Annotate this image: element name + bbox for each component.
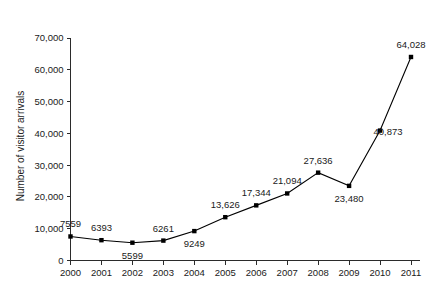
data-point-marker: [409, 55, 413, 59]
y-tick-label: 0: [58, 255, 63, 266]
data-point-labels: 7559639355996261924913,62617,34421,09427…: [60, 39, 426, 261]
data-point-label: 9249: [184, 238, 205, 249]
data-point-marker: [347, 184, 351, 188]
data-point-label: 40,873: [374, 126, 403, 137]
data-point-marker: [161, 238, 165, 242]
data-point-marker: [68, 234, 72, 238]
x-tick-label: 2008: [308, 267, 329, 278]
data-point-label: 23,480: [335, 193, 364, 204]
data-point-label: 17,344: [242, 187, 271, 198]
chart-figure: 010,00020,00030,00040,00050,00060,00070,…: [0, 0, 427, 293]
y-axis-group: 010,00020,00030,00040,00050,00060,00070,…: [15, 32, 71, 266]
y-tick-label: 60,000: [34, 64, 63, 75]
x-tick-label: 2003: [153, 267, 174, 278]
x-tick-label: 2001: [91, 267, 112, 278]
x-tick-label: 2002: [122, 267, 143, 278]
data-point-label: 27,636: [304, 155, 333, 166]
y-tick-label: 40,000: [34, 128, 63, 139]
data-point-marker: [192, 229, 196, 233]
visitor-arrivals-line-chart: 010,00020,00030,00040,00050,00060,00070,…: [0, 0, 427, 293]
data-point-marker: [130, 241, 134, 245]
data-point-markers: [68, 55, 413, 245]
data-point-marker: [285, 191, 289, 195]
visitor-arrivals-series-line: [71, 57, 412, 243]
x-tick-label: 2009: [339, 267, 360, 278]
data-point-label: 64,028: [396, 39, 425, 50]
y-tick-label: 70,000: [34, 32, 63, 43]
x-tick-label: 2010: [369, 267, 390, 278]
data-point-label: 7559: [60, 218, 81, 229]
x-tick-label: 2011: [401, 267, 421, 278]
y-axis-tick-labels: 010,00020,00030,00040,00050,00060,00070,…: [34, 32, 63, 266]
data-point-label: 6393: [91, 222, 112, 233]
x-tick-label: 2005: [215, 267, 236, 278]
data-point-label: 13,626: [211, 199, 240, 210]
y-tick-label: 30,000: [34, 160, 63, 171]
data-point-marker: [99, 238, 103, 242]
data-point-label: 5599: [122, 250, 143, 261]
data-point-label: 21,094: [273, 175, 302, 186]
x-tick-label: 2004: [184, 267, 205, 278]
x-axis-ticks: [71, 261, 412, 265]
data-point-marker: [316, 170, 320, 174]
x-tick-label: 2000: [60, 267, 81, 278]
data-point-marker: [223, 215, 227, 219]
y-tick-label: 50,000: [34, 96, 63, 107]
x-tick-label: 2007: [277, 267, 298, 278]
y-tick-label: 20,000: [34, 191, 63, 202]
data-point-label: 6261: [153, 223, 174, 234]
data-point-marker: [254, 203, 258, 207]
data-series-group: 7559639355996261924913,62617,34421,09427…: [60, 39, 426, 261]
y-axis-title: Number of visitor arrivals: [15, 91, 26, 202]
x-tick-label: 2006: [246, 267, 267, 278]
x-axis-tick-labels: 2000200120022003200420052006200720082009…: [60, 267, 421, 278]
x-axis-group: 2000200120022003200420052006200720082009…: [60, 261, 421, 278]
